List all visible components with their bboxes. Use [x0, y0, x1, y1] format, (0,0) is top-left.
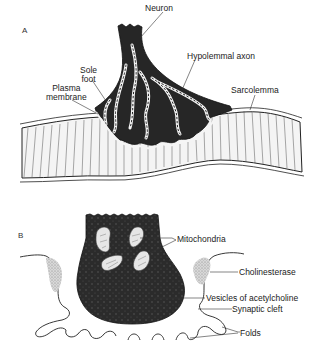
cholinesterase-left	[46, 258, 62, 292]
label-sarcolemma: Sarcolemma	[231, 86, 279, 95]
nerve-terminal	[77, 214, 185, 324]
label-cholinesterase: Cholinesterase	[239, 268, 296, 277]
panel-b-drawing	[20, 214, 244, 340]
label-plasma-membrane: Plasma membrane	[46, 84, 87, 102]
label-vesicles-of-acetylcholine: Vesicles of acetylcholine	[206, 294, 298, 303]
label-mitochondria: Mitochondria	[177, 235, 226, 244]
label-hypolemmal-axon: Hypolemmal axon	[187, 52, 255, 61]
label-sole-foot-line2: foot	[80, 75, 97, 84]
label-folds: Folds	[240, 329, 261, 338]
panel-b-letter: B	[18, 231, 23, 240]
label-plasma-membrane-line2: membrane	[46, 93, 87, 102]
label-neuron: Neuron	[145, 4, 173, 13]
label-sole-foot: Sole foot	[80, 66, 97, 84]
label-synaptic-cleft: Synaptic cleft	[232, 305, 283, 314]
neuromuscular-junction-figure	[0, 0, 315, 342]
panel-a-letter: A	[22, 26, 27, 35]
cholinesterase-right	[193, 258, 210, 285]
